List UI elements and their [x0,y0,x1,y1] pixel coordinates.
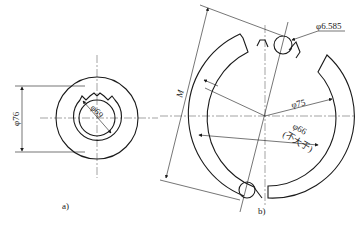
ball-dim-label: φ6.585 [316,21,342,31]
m-extension-bottom [160,180,240,200]
figure-b: M φ6.585 φ75 φ66 (不大于) b) [160,5,355,216]
ball-top [274,36,292,54]
figure-b-label: b) [258,206,266,216]
m-dim-line [166,8,208,178]
ring-left-segment [188,34,256,196]
dim-outer-label: φ76 [11,111,21,126]
technical-drawing: φ76 φ69 a) M φ6.585 φ75 [0,0,358,228]
radial-line [205,88,265,116]
m-dim-label: M [174,88,186,99]
figure-a-label: a) [62,201,69,211]
dim-inner-label: φ69 [89,103,106,121]
m-extension-top [200,5,283,36]
figure-a: φ76 φ69 a) [11,55,158,211]
dim-outer-label: φ75 [290,97,306,110]
ring-left-end [256,190,262,198]
ring-right-segment [268,55,354,198]
ball-leader [292,31,318,40]
ring-top-tabs [257,40,300,58]
